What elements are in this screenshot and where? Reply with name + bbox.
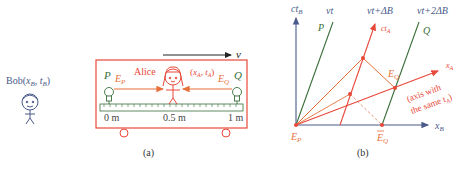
lightbulb-q-icon: [233, 88, 242, 105]
panel-a: Bob(xB, tB) v: [6, 48, 247, 159]
diagram-canvas: Bob(xB, tB) v: [0, 0, 476, 172]
caption-b: (b): [357, 147, 369, 159]
q-worldline-label: Q: [423, 25, 431, 36]
light-ray-ep: [296, 58, 363, 125]
xa-label: xA: [445, 61, 454, 71]
eq-label-b: EQ: [387, 68, 399, 81]
alice-figure-icon: [163, 67, 183, 104]
event-alice-lower-dot: [348, 92, 352, 96]
vt-plus-db-label: vt+ΔB: [367, 5, 393, 16]
q-label: Q: [234, 69, 242, 81]
event-eq-dot: [393, 86, 397, 90]
ruler-tick-0-5m: 0.5 m: [163, 112, 186, 123]
p-worldline: [296, 22, 333, 125]
p-worldline-label: P: [317, 22, 324, 33]
alice-coords: (xA, tA): [190, 67, 214, 78]
panel-b: ctB xB vt vt+ΔB vt+2ΔB P Q ctA xA (axis …: [290, 3, 454, 159]
cta-axis: [340, 24, 375, 125]
vt-plus-2db-label: vt+2ΔB: [417, 5, 448, 16]
ruler-tick-1m: 1 m: [228, 112, 244, 123]
bob-label: Bob(xB, tB): [6, 75, 50, 88]
lightbulb-p-icon: [105, 88, 114, 105]
ep-label-b: EP: [290, 131, 302, 144]
cta-label: ctA: [381, 24, 391, 34]
wheel-right-icon: [222, 129, 230, 137]
bob-figure-icon: [22, 94, 38, 124]
ep-label-a: EP: [114, 73, 126, 86]
ruler-tick-0m: 0 m: [104, 112, 120, 123]
vt-label: vt: [326, 5, 333, 16]
p-label: P: [103, 69, 111, 81]
ctb-label: ctB: [291, 3, 303, 16]
alice-label: Alice: [134, 66, 156, 77]
eqbar-label-b: EQ: [376, 132, 388, 145]
event-eqbar-dot: [380, 123, 384, 127]
ruler: [100, 104, 243, 111]
xb-label: xB: [434, 120, 444, 133]
event-ep-dot: [294, 123, 298, 127]
event-alice-receive-dot: [361, 56, 365, 60]
velocity-label: v: [236, 48, 241, 60]
wheel-left-icon: [120, 129, 128, 137]
caption-a: (a): [143, 147, 154, 159]
eq-label-a: EQ: [217, 73, 229, 86]
